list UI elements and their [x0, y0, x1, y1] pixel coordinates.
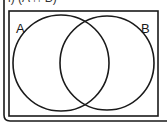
set-a-circle[interactable] [13, 15, 109, 111]
venn-diagram: A B [0, 0, 167, 124]
set-a-label: A [16, 21, 25, 36]
set-b-circle[interactable] [60, 16, 154, 110]
answer-box-border [4, 0, 167, 121]
set-b-label: B [141, 21, 150, 36]
